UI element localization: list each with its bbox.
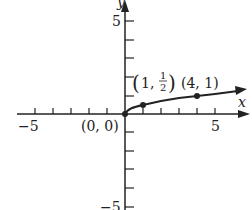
point-4-1: [194, 93, 200, 99]
graph: y x −5 5 5 −5 (0, 0) ( 1, 1 2 ) (4, 1): [0, 0, 252, 210]
y-tick-label-neg5: −5: [100, 199, 121, 210]
y-tick-label-5: 5: [112, 13, 121, 29]
x-tick-label-neg5: −5: [18, 118, 39, 134]
p1-close-paren: ): [168, 71, 176, 95]
p1-numerator: 1: [160, 70, 166, 81]
p1-denominator: 2: [160, 82, 166, 93]
y-axis-label: y: [116, 0, 126, 10]
origin-label: (0, 0): [81, 118, 119, 134]
p1-label-x: 1,: [141, 75, 154, 91]
x-axis-label: x: [238, 94, 246, 110]
p1-open-paren: (: [132, 71, 140, 95]
x-tick-label-5: 5: [211, 118, 220, 134]
point-origin: [122, 111, 128, 117]
x-axis-arrow-icon: [238, 110, 250, 118]
p2-label: (4, 1): [181, 75, 219, 91]
point-1-half: [140, 102, 146, 108]
